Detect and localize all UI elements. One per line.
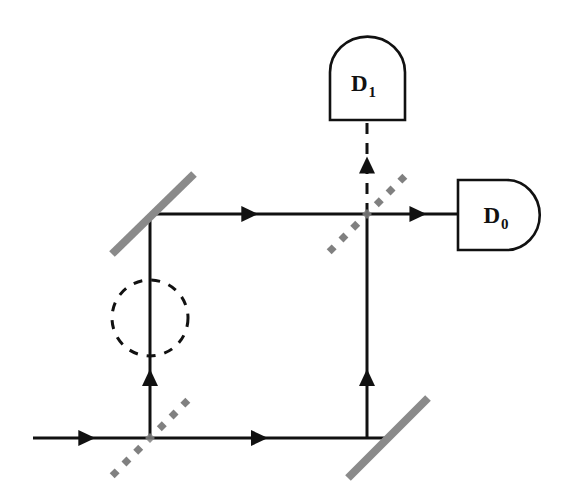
interferometer-canvas: D1D0	[0, 0, 571, 500]
detector-subscript-D1: 1	[369, 84, 377, 100]
interferometer-diagram: D1D0	[0, 0, 571, 500]
detector-D0[interactable]: D0	[458, 180, 540, 250]
detector-subscript-D0: 0	[501, 216, 509, 232]
detector-D1[interactable]: D1	[330, 37, 405, 120]
